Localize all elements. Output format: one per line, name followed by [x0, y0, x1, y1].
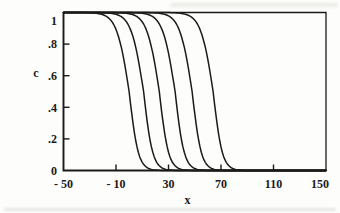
x-tick-label: - 50: [54, 177, 73, 191]
wavefront-3-curve: [64, 13, 327, 171]
x-tick-label: 110: [265, 177, 282, 191]
y-tick-label: .8: [48, 37, 57, 51]
wavefront-2-curve: [64, 13, 327, 171]
y-tick-label: .6: [48, 69, 57, 83]
y-tick-label: 1: [51, 14, 57, 28]
x-tick-label: 150: [311, 177, 329, 191]
scan-artifact-bottom: [4, 208, 336, 211]
wavefront-6-curve: [64, 13, 327, 171]
wavefront-4-curve: [64, 13, 327, 171]
x-tick-label: 30: [163, 177, 175, 191]
x-tick-label: 70: [215, 177, 227, 191]
scan-artifact-top: [170, 3, 338, 7]
y-axis-label: c: [33, 66, 39, 80]
y-tick-label: .2: [48, 132, 57, 146]
y-tick-label: 0: [51, 164, 57, 178]
wavefront-chart: - 50- 1030701101500.2.4.6.81cx: [0, 0, 340, 213]
axis-lines: [64, 13, 327, 171]
x-axis-label: x: [185, 193, 191, 207]
wavefront-5-curve: [64, 13, 327, 171]
x-tick-label: - 10: [107, 177, 126, 191]
scanned-figure-page: - 50- 1030701101500.2.4.6.81cx: [0, 0, 340, 213]
plot-frame-top-right: [64, 13, 327, 171]
wavefront-1-curve: [64, 13, 327, 171]
y-tick-label: .4: [48, 101, 57, 115]
